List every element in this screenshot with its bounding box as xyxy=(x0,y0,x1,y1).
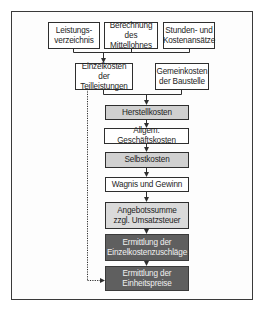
box-leistungsverzeichnis: Leistungs- verzeichnis xyxy=(48,22,100,49)
box-label: Selbstkosten xyxy=(124,155,169,165)
box-label: Herstellkosten xyxy=(122,108,172,118)
box-selbstkosten: Selbstkosten xyxy=(105,152,189,168)
box-label: Ermittlung der Einzelkostenzuschläge xyxy=(107,238,187,258)
box-berechnung-mittellohn: Berechnung des Mittellohnes xyxy=(104,22,158,49)
box-allgemeine-geschaeftskosten: Allgem. Geschäftskosten xyxy=(104,128,189,144)
box-label: Allgem. Geschäftskosten xyxy=(105,126,188,146)
box-einzelkosten: Einzelkosten der Teilleistungen xyxy=(75,63,133,90)
box-ermittlung-einheitspreise: Ermittlung der Einheitspreise xyxy=(105,266,189,291)
box-label: Berechnung des Mittellohnes xyxy=(105,21,157,51)
box-gemeinkosten: Gemeinkosten der Baustelle xyxy=(155,63,209,90)
box-label: Gemeinkosten der Baustelle xyxy=(157,67,208,87)
box-label: Angebotssumme zzgl. Umsatzsteuer xyxy=(114,206,181,226)
box-wagnis-gewinn: Wagnis und Gewinn xyxy=(105,177,189,192)
box-angebotssumme: Angebotssumme zzgl. Umsatzsteuer xyxy=(105,202,189,229)
box-herstellkosten: Herstellkosten xyxy=(105,105,189,120)
box-label: Ermittlung der Einheitspreise xyxy=(122,269,171,289)
box-ermittlung-einzelkostenzuschlaege: Ermittlung der Einzelkostenzuschläge xyxy=(105,234,189,261)
box-label: Wagnis und Gewinn xyxy=(112,180,182,190)
box-label: Leistungs- verzeichnis xyxy=(54,26,93,46)
box-stunden-kostenansaetze: Stunden- und Kostenansätze xyxy=(163,22,215,49)
box-label: Einzelkosten der Teilleistungen xyxy=(76,62,132,92)
box-label: Stunden- und Kostenansätze xyxy=(163,26,215,46)
